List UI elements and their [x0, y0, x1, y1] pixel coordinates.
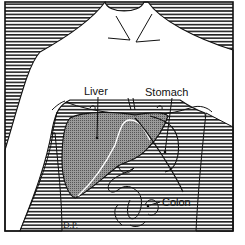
label-liver: Liver	[84, 85, 108, 97]
label-colon: Colon	[162, 196, 191, 208]
label-stomach: Stomach	[145, 86, 188, 98]
artist-signature: D.P.	[63, 220, 78, 230]
anatomy-diagram: Liver Stomach Colon D.P.	[0, 0, 245, 245]
